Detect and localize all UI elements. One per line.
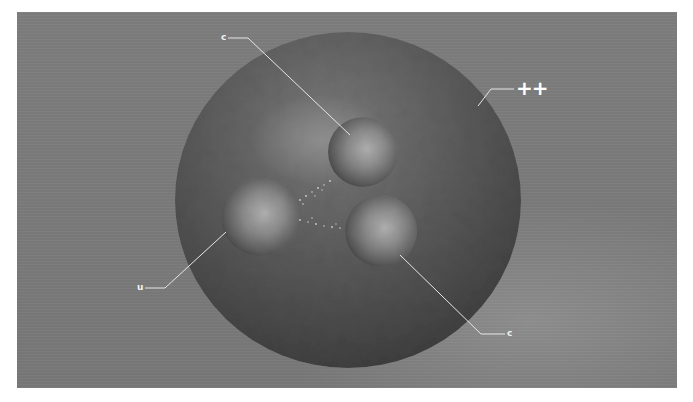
- charm-quark-top: [328, 117, 398, 187]
- label-u: u: [137, 283, 143, 292]
- label-bottom-c: c: [507, 329, 512, 338]
- label-charge: ++: [516, 78, 548, 98]
- baryon-illustration: [0, 0, 693, 402]
- charm-quark-bottom: [345, 195, 417, 267]
- up-quark: [221, 178, 299, 256]
- label-top-c: c: [221, 33, 226, 42]
